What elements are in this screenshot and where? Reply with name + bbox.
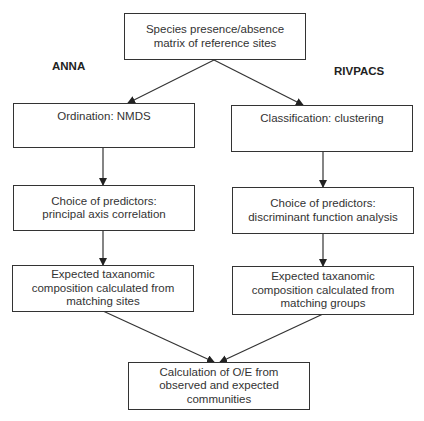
final-node: Calculation of O/E from observed and exp… <box>128 362 310 410</box>
anna-step-ordination: Ordination: NMDS <box>13 103 195 148</box>
branch-label-anna: ANNA <box>52 60 85 72</box>
root-node-text: Species presence/absence matrix of refer… <box>146 23 284 50</box>
rivpacs-step-classification: Classification: clustering <box>231 105 413 152</box>
rivpacs-step-predictors-text: Choice of predictors: discriminant funct… <box>248 197 398 224</box>
branch-label-rivpacs: RIVPACS <box>334 65 384 77</box>
anna-step-predictors-text: Choice of predictors: principal axis cor… <box>42 195 165 222</box>
anna-step-predictors: Choice of predictors: principal axis cor… <box>13 185 195 231</box>
anna-step-ordination-text: Ordination: NMDS <box>57 110 150 124</box>
rivpacs-step-classification-text: Classification: clustering <box>260 112 383 126</box>
anna-step-expected-text: Expected taxanomic composition calculate… <box>32 268 175 309</box>
rivpacs-step-predictors: Choice of predictors: discriminant funct… <box>232 187 414 234</box>
anna-step-expected: Expected taxanomic composition calculate… <box>12 265 194 312</box>
final-node-text: Calculation of O/E from observed and exp… <box>159 366 279 407</box>
rivpacs-step-expected-text: Expected taxanomic composition calculate… <box>252 270 395 311</box>
rivpacs-step-expected: Expected taxanomic composition calculate… <box>232 266 414 315</box>
root-node: Species presence/absence matrix of refer… <box>124 13 306 60</box>
